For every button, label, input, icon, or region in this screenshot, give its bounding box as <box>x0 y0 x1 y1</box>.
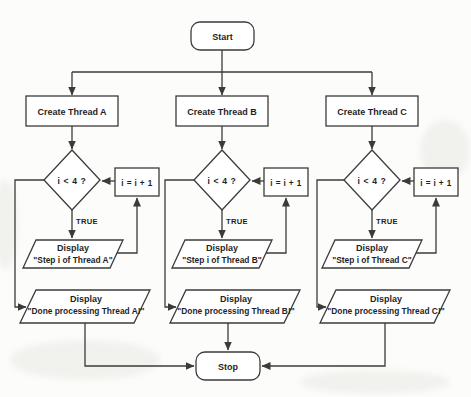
step-display-c-line2: "Step i of Thread C" <box>332 255 412 265</box>
start-label: Start <box>212 32 233 42</box>
step-display-c-line1: Display <box>356 243 388 253</box>
decision-c-label: i < 4 ? <box>358 176 387 186</box>
decision-b-label: i < 4 ? <box>208 176 237 186</box>
done-display-a-line1: Display <box>70 294 102 304</box>
flowchart-svg: Start Stop Create Thread A i < 4 ? i = i… <box>0 0 471 397</box>
branch-thread-c: Create Thread C i < 4 ? i = i + 1 TRUE D… <box>320 96 458 323</box>
stop-label: Stop <box>218 362 238 372</box>
flowchart-canvas: Start Stop Create Thread A i < 4 ? i = i… <box>0 0 471 397</box>
true-label-a: TRUE <box>76 217 98 226</box>
branch-thread-a: Create Thread A i < 4 ? i = i + 1 TRUE D… <box>20 96 159 323</box>
increment-a-label: i = i + 1 <box>121 179 152 188</box>
branch-thread-b: Create Thread B i < 4 ? i = i + 1 TRUE D… <box>170 96 308 323</box>
increment-c-label: i = i + 1 <box>420 179 451 188</box>
step-display-a-line1: Display <box>57 243 89 253</box>
step-display-b-line2: "Step i of Thread B" <box>182 255 262 265</box>
done-display-c-line2: "Done processing Thread C!" <box>327 306 444 316</box>
done-display-c-line1: Display <box>370 294 402 304</box>
increment-b-label: i = i + 1 <box>270 179 301 188</box>
create-thread-c-label: Create Thread C <box>337 107 407 117</box>
true-label-b: TRUE <box>226 217 248 226</box>
decision-a-label: i < 4 ? <box>58 176 87 186</box>
done-display-b-line2: "Done processing Thread B!" <box>177 306 294 316</box>
done-display-a-line2: "Done processing Thread A!" <box>28 306 145 316</box>
step-display-b-line1: Display <box>206 243 238 253</box>
connector-done-a-to-stop <box>85 323 194 366</box>
done-display-b-line1: Display <box>220 294 252 304</box>
create-thread-a-label: Create Thread A <box>37 107 107 117</box>
step-display-a-line2: "Step i of Thread A" <box>33 255 112 265</box>
connector-done-c-to-stop <box>262 323 385 366</box>
create-thread-b-label: Create Thread B <box>187 107 257 117</box>
true-label-c: TRUE <box>376 217 398 226</box>
